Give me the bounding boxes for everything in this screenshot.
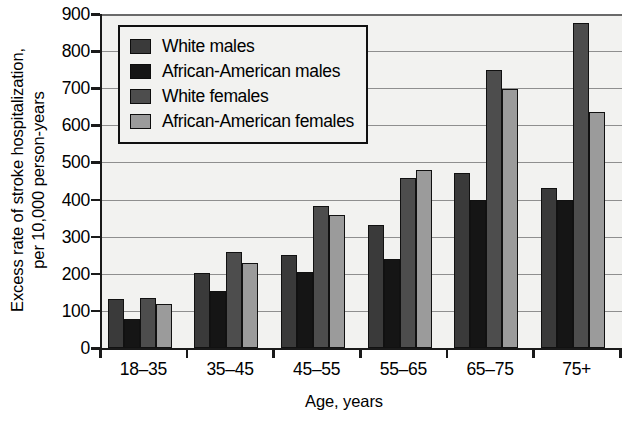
legend-item: White females	[130, 84, 354, 109]
y-axis-tick-label: 500	[62, 153, 90, 171]
legend-swatch-icon	[130, 114, 151, 129]
bar	[454, 173, 470, 348]
y-axis-tick-label: 800	[62, 42, 90, 60]
x-axis-title-text: Age, years	[305, 392, 383, 411]
x-axis-tick-mark	[359, 349, 362, 358]
legend-item: African-American females	[130, 109, 354, 134]
y-axis-tick-mark	[91, 199, 100, 202]
y-axis-tick-label: 400	[62, 191, 90, 209]
chart-legend: White malesAfrican-American malesWhite f…	[118, 25, 368, 144]
y-axis-tick-label: 300	[62, 228, 90, 246]
bar	[589, 112, 605, 348]
x-axis-tick-label: 18–35	[120, 359, 167, 379]
y-axis-tick-label: 100	[62, 302, 90, 320]
legend-swatch-icon	[130, 89, 151, 104]
y-axis-tick-mark	[91, 236, 100, 239]
y-axis-tick-mark	[91, 273, 100, 276]
x-axis-tick-label: 55–65	[380, 359, 427, 379]
x-axis-tick-label: 35–45	[206, 359, 253, 379]
bar	[416, 170, 432, 348]
y-axis-tick-mark	[91, 50, 100, 53]
bar	[156, 304, 172, 348]
bar	[210, 291, 226, 348]
y-axis-title-line-1: Excess rate of stroke hospitalization,	[7, 48, 28, 312]
bar	[541, 188, 557, 348]
bar	[194, 273, 210, 348]
y-axis-tick-label: 700	[62, 79, 90, 97]
bar	[226, 252, 242, 348]
y-axis-tick-label: 0	[81, 339, 90, 357]
legend-label: African-American males	[162, 62, 340, 81]
stroke-hospitalization-bar-chart: Excess rate of stroke hospitalization, p…	[0, 0, 622, 427]
x-axis-tick-label: 65–75	[466, 359, 513, 379]
y-axis-tick-label: 200	[62, 265, 90, 283]
y-axis-title-line-2: per 10,000 person-years	[28, 48, 49, 312]
y-axis-title: Excess rate of stroke hospitalization, p…	[0, 0, 56, 360]
legend-label: White females	[162, 87, 268, 106]
x-axis-tick-label: 75+	[562, 359, 591, 379]
bar	[486, 70, 502, 348]
x-axis-title: Age, years	[0, 392, 622, 411]
y-axis-tick-labels: 0100200300400500600700800900	[52, 0, 98, 360]
y-axis-tick-mark	[91, 13, 100, 16]
bar	[573, 23, 589, 348]
legend-swatch-icon	[130, 39, 151, 54]
x-axis-tick-label: 45–55	[293, 359, 340, 379]
legend-label: White males	[162, 37, 254, 56]
bar	[329, 215, 345, 348]
legend-item: African-American males	[130, 59, 354, 84]
x-axis-tick-mark	[532, 349, 535, 358]
legend-swatch-icon	[130, 64, 151, 79]
bar	[502, 89, 518, 348]
bar	[384, 259, 400, 348]
bar	[108, 299, 124, 348]
bar	[140, 298, 156, 348]
bar	[557, 200, 573, 348]
bar	[242, 263, 258, 348]
bar	[368, 225, 384, 348]
x-axis-tick-mark	[619, 349, 622, 358]
bar	[313, 206, 329, 348]
x-axis-tick-mark	[99, 349, 102, 358]
legend-item: White males	[130, 34, 354, 59]
y-axis-tick-label: 600	[62, 116, 90, 134]
bar	[281, 255, 297, 348]
y-axis-tick-mark	[91, 124, 100, 127]
y-axis-tick-mark	[91, 161, 100, 164]
x-axis-tick-mark	[186, 349, 189, 358]
bar	[400, 178, 416, 348]
y-axis-tick-mark	[91, 87, 100, 90]
y-axis-tick-mark	[91, 310, 100, 313]
legend-label: African-American females	[162, 112, 354, 131]
x-axis-tick-mark	[272, 349, 275, 358]
bar	[124, 319, 140, 348]
bar	[470, 200, 486, 348]
x-axis-tick-mark	[446, 349, 449, 358]
y-axis-tick-label: 900	[62, 5, 90, 23]
bar	[297, 272, 313, 348]
